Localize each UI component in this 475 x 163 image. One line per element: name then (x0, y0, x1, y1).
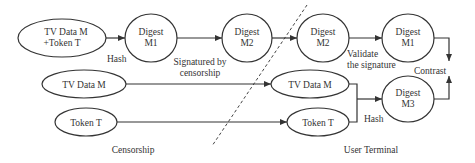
node-tv-data: TV Data M (42, 70, 126, 98)
node-digest-m1-line1: Digest (139, 27, 164, 37)
node-ut-digest-m2-line1: Digest (311, 27, 336, 37)
node-ut-tv-data: TV Data M (271, 70, 349, 98)
node-digest-m2-line2: M2 (240, 38, 253, 48)
label-validate-line1: Validate (347, 49, 378, 59)
node-digest-m1-line2: M1 (144, 38, 157, 48)
node-ut-tv-data-label: TV Data M (288, 80, 332, 90)
node-digest-m2-line1: Digest (235, 27, 260, 37)
node-ut-digest-m1: Digest M1 (382, 14, 434, 62)
node-token-label: Token T (70, 118, 102, 128)
node-ut-digest-m2: Digest M2 (297, 14, 349, 62)
node-ut-digest-m1-line1: Digest (396, 27, 421, 37)
node-token: Token T (55, 108, 117, 136)
node-tv-data-token-line1: TV Data M (44, 27, 88, 37)
label-signatured-line2: censorship (180, 68, 221, 78)
node-tv-data-token: TV Data M +Token T (18, 19, 106, 57)
node-ut-token-label: Token T (302, 118, 334, 128)
node-ut-token: Token T (287, 108, 349, 136)
label-validate-line2: the signature (347, 60, 396, 70)
region-label-user-terminal: User Terminal (344, 145, 399, 155)
label-contrast: Contrast (414, 66, 447, 76)
node-tv-data-label: TV Data M (62, 80, 106, 90)
edge-contrast-top (434, 38, 449, 61)
node-digest-m2: Digest M2 (222, 14, 272, 62)
node-digest-m3-line2: M3 (401, 99, 414, 109)
label-signatured-line1: Signatured by (173, 57, 226, 67)
node-tv-data-token-line2: +Token T (44, 38, 81, 48)
edge-contrast-bottom (434, 76, 449, 99)
label-hash-top: Hash (107, 54, 127, 64)
region-label-censorship: Censorship (112, 145, 155, 155)
node-digest-m3-line1: Digest (396, 88, 421, 98)
node-digest-m3: Digest M3 (382, 76, 434, 122)
node-ut-digest-m1-line2: M1 (401, 38, 414, 48)
node-digest-m1: Digest M1 (125, 14, 177, 62)
edge-hash-bottom-1 (349, 84, 357, 122)
signature-flow-diagram: TV Data M +Token T Digest M1 Digest M2 D… (0, 0, 475, 163)
node-ut-digest-m2-line2: M2 (316, 38, 329, 48)
label-hash-bottom: Hash (364, 114, 384, 124)
